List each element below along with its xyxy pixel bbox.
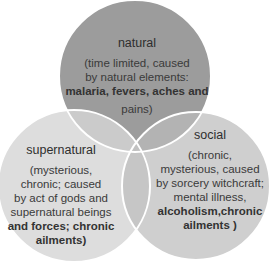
- social-label: social (chronic, mysterious, caused by s…: [150, 128, 270, 232]
- social-line-5: alcoholism,chronic: [158, 205, 263, 217]
- social-line-2: mysterious, caused: [160, 163, 259, 175]
- social-line-4: mental illness,: [174, 191, 247, 203]
- supernatural-line-2: chronic; caused: [21, 178, 102, 190]
- supernatural-title: supernatural: [3, 143, 119, 157]
- social-line-6: ailments ): [183, 219, 237, 231]
- supernatural-line-6: ailments): [36, 234, 87, 246]
- supernatural-line-5: and forces; chronic: [8, 220, 115, 232]
- social-description: (chronic, mysterious, caused by sorcery …: [150, 148, 270, 232]
- natural-line-1: (time limited, caused: [84, 57, 189, 69]
- natural-line-2: by natural elements:: [85, 71, 189, 83]
- natural-line-4: pains): [121, 102, 152, 116]
- natural-line-3: malaria, fevers, aches and: [65, 85, 208, 97]
- supernatural-line-3: by act of gods and: [14, 192, 108, 204]
- social-title: social: [150, 128, 270, 142]
- natural-title: natural: [62, 36, 212, 50]
- supernatural-label: supernatural (mysterious, chronic; cause…: [3, 143, 119, 247]
- supernatural-line-1: (mysterious,: [30, 164, 93, 176]
- natural-label: natural (time limited, caused by natural…: [62, 36, 212, 116]
- supernatural-line-4: supernatural beings: [10, 206, 111, 218]
- social-line-1: (chronic,: [188, 149, 232, 161]
- social-line-3: by sorcery witchcraft;: [156, 177, 264, 189]
- natural-description: (time limited, caused by natural element…: [62, 56, 212, 116]
- supernatural-description: (mysterious, chronic; caused by act of g…: [3, 163, 119, 247]
